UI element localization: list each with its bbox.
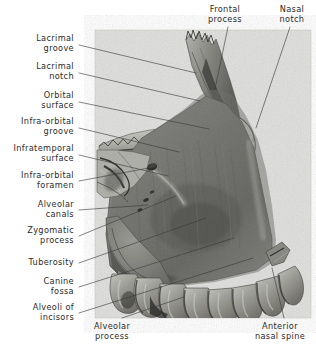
label-anterior-nasal-spine: Anterior nasal spine [246,322,314,341]
label-orbital-surface: Orbital surface [2,91,74,110]
label-canine-fossa: Canine fossa [2,277,74,296]
label-infra-orbital-foramen: Infra-orbital foramen [2,171,74,190]
label-nasal-notch: Nasal notch [268,5,316,24]
label-infratemporal-surface: Infratemporal surface [2,144,74,163]
bone-specimen [95,30,311,325]
label-zygomatic-process: Zygomatic process [2,226,74,245]
label-infra-orbital-groove: Infra-orbital groove [2,117,74,136]
label-tuberosity: Tuberosity [2,258,74,268]
label-alveolar-process: Alveolar process [74,322,150,341]
label-alveolar-canals: Alveolar canals [2,200,74,219]
label-frontal-process: Frontal process [196,5,254,24]
label-lacrimal-notch: Lacrimal notch [2,62,74,81]
label-lacrimal-groove: Lacrimal groove [2,34,74,53]
label-alveoli-of-incisors: Alveoli of incisors [2,303,74,322]
anatomical-figure-maxilla: Lacrimal grooveLacrimal notchOrbital sur… [0,0,316,350]
